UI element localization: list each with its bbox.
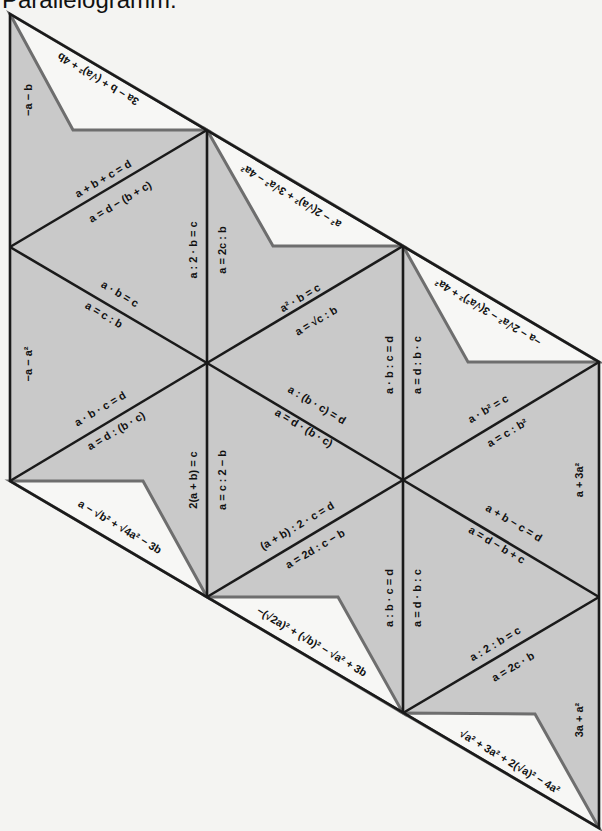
label-v1-lower-right: a = c : 2 − b <box>216 450 228 510</box>
edge-label-left-top: −a − b <box>22 84 34 116</box>
label-v2-upper-left: a · b : c = d <box>383 336 395 394</box>
edge-label-right-top: a + 3a² <box>573 462 585 497</box>
edge-label-right-bottom: 3a + a² <box>573 702 585 737</box>
label-v2-upper-right: a = d : b · c <box>411 336 423 394</box>
label-v1-upper-left: a : 2 · b = c <box>187 221 199 278</box>
edge-label-left-bottom: −a − a² <box>22 346 34 381</box>
parallelogram-puzzle: −a − b −a − a² a + 3a² 3a + a² 3a − b + … <box>0 0 602 831</box>
label-v1-upper-right: a = 2c : b <box>216 226 228 274</box>
label-v1-lower-left: 2(a + b) = c <box>187 451 199 508</box>
label-v2-lower-right: a = d · b : c <box>411 569 423 627</box>
label-v2-lower-left: a : b · c = d <box>383 569 395 627</box>
